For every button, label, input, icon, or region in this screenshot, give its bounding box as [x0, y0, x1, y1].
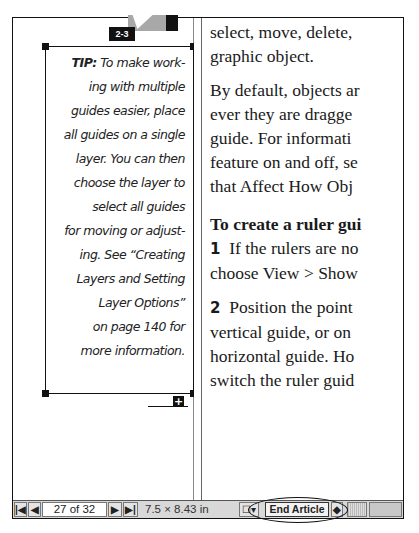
column-gutter [194, 18, 201, 500]
figure-label: 2-3 [109, 27, 135, 41]
body-text: select, move, delete, graphic object. By… [210, 20, 404, 392]
first-page-button[interactable]: |◀ [14, 502, 27, 517]
body-line: switch the ruler guid [210, 368, 404, 392]
tip-line: guides easier, place [47, 99, 185, 123]
step-text: Position the point [229, 297, 352, 317]
tip-label: TIP: [71, 55, 96, 70]
step-number: 1 [210, 240, 220, 258]
frame-handle-top-left[interactable] [42, 43, 49, 50]
tip-line: all guides on a single [47, 123, 185, 147]
step-number: 2 [210, 299, 220, 317]
page-size-display: 7.5 × 8.43 in [145, 502, 225, 517]
tip-line-text: To make work- [100, 55, 185, 70]
tip-line: on page 140 for [47, 315, 185, 339]
body-line: vertical guide, or on [210, 320, 404, 344]
paragraph-gap [210, 198, 404, 208]
figure-black-block [166, 15, 178, 31]
tip-line: layer. You can then [47, 147, 185, 171]
tip-line: for moving or adjust- [47, 219, 185, 243]
step-line: 1 If the rulers are no [210, 236, 404, 261]
tip-text: TIP: To make work- ing with multiple gui… [47, 51, 185, 363]
highlight-ellipse-annotation [248, 497, 348, 523]
body-line: horizontal guide. Ho [210, 344, 404, 368]
horizontal-scroll-thumb[interactable] [347, 502, 367, 517]
document-window: 2-3 TIP: To make work- ing with multiple… [12, 17, 404, 519]
prev-page-button[interactable]: ◀ [28, 502, 41, 517]
body-line: ever they are dragge [210, 102, 404, 126]
body-line: select, move, delete, [210, 20, 404, 44]
body-line: By default, objects ar [210, 78, 404, 102]
tip-line: ing with multiple [47, 75, 185, 99]
horizontal-scrollbar-track[interactable] [369, 502, 402, 517]
last-page-button[interactable]: ▶| [123, 502, 138, 517]
tip-line: Layers and Setting [47, 267, 185, 291]
tip-line: select all guides [47, 195, 185, 219]
paragraph-gap [210, 285, 404, 295]
next-page-button[interactable]: ▶ [108, 502, 122, 517]
tip-line: Layer Options” [47, 291, 185, 315]
left-column: 2-3 TIP: To make work- ing with multiple… [13, 18, 194, 500]
tip-text-frame[interactable]: TIP: To make work- ing with multiple gui… [45, 46, 194, 394]
status-bar: |◀ ◀ 27 of 32 ▶ ▶| 7.5 × 8.43 in ☐▾ End … [13, 500, 403, 518]
body-line: choose View > Show [210, 261, 404, 285]
paragraph-gap [210, 68, 404, 78]
right-column: select, move, delete, graphic object. By… [202, 18, 404, 500]
body-line: that Affect How Obj [210, 174, 404, 198]
tip-line: choose the layer to [47, 171, 185, 195]
tip-line: TIP: To make work- [47, 51, 185, 75]
page-number-field[interactable]: 27 of 32 [42, 502, 107, 517]
body-line: guide. For informati [210, 126, 404, 150]
tip-line: ing. See “Creating [47, 243, 185, 267]
tip-line: more information. [47, 339, 185, 363]
overflow-plus-icon[interactable]: + [173, 396, 184, 407]
step-text: If the rulers are no [229, 238, 358, 258]
body-line: feature on and off, se [210, 150, 404, 174]
frame-handle-bottom-left[interactable] [42, 390, 49, 397]
step-line: 2 Position the point [210, 295, 404, 320]
section-heading: To create a ruler gui [210, 212, 404, 236]
body-line: graphic object. [210, 44, 404, 68]
